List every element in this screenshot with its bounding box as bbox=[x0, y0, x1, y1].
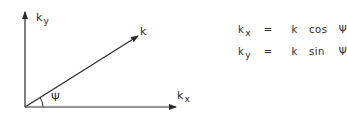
angle-arc bbox=[40, 98, 43, 108]
y-axis-label: ky bbox=[36, 12, 49, 23]
x-axis-label: kx bbox=[177, 90, 190, 101]
vector-label: k bbox=[140, 26, 146, 37]
angle-label: Ψ bbox=[51, 92, 60, 103]
k-vector bbox=[25, 36, 138, 107]
equation-ky: ky = k sin Ψ bbox=[238, 47, 347, 57]
equation-kx: kx = k cos Ψ bbox=[238, 25, 347, 35]
